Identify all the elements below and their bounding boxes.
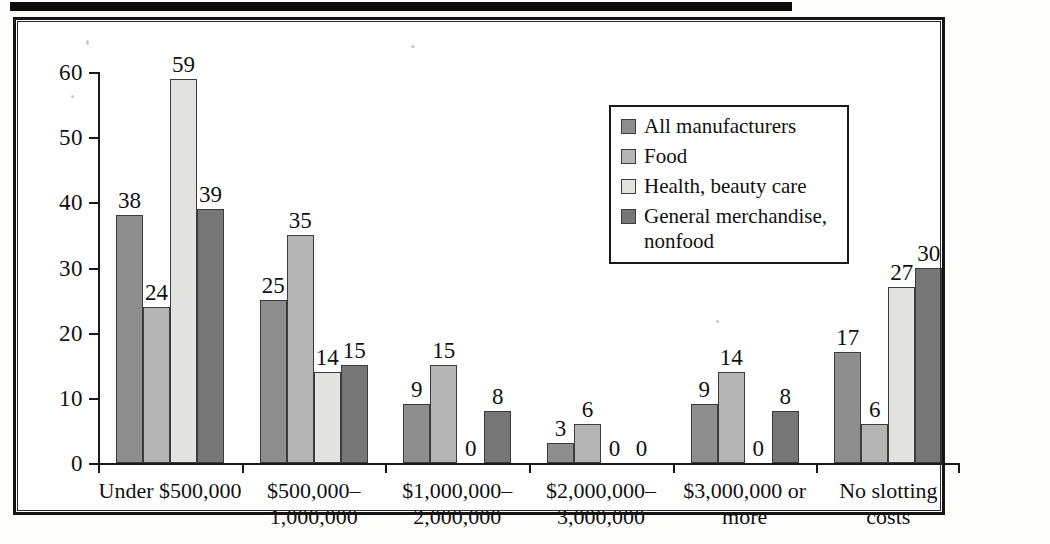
y-axis-tick: 10 (89, 398, 98, 400)
bar-value-label: 3 (555, 417, 567, 440)
bar-value-label: 14 (316, 346, 339, 369)
bar-column: 24 (143, 72, 170, 463)
bar-value-label: 27 (890, 261, 913, 284)
bar-column: 14 (314, 72, 341, 463)
bar-column: 15 (341, 72, 368, 463)
bar-column: 6 (574, 72, 601, 463)
figure-frame: 0102030405060 38245939253514159150836009… (13, 17, 945, 515)
bar-column: 27 (888, 72, 915, 463)
bar (430, 365, 457, 463)
legend-item-label: All manufacturers (644, 114, 796, 138)
y-axis-tick-label: 30 (59, 256, 83, 282)
bar (484, 411, 511, 463)
bar (341, 365, 368, 463)
legend-item-label: Health, beauty care (644, 174, 807, 198)
y-axis-tick: 0 (89, 463, 98, 465)
bar (143, 307, 170, 463)
bar-column: 59 (170, 72, 197, 463)
legend-item-label: General merchandise, nonfood (644, 204, 827, 252)
y-axis-tick-label: 0 (71, 451, 83, 477)
y-axis-tick: 20 (89, 333, 98, 335)
bar-column: 39 (197, 72, 224, 463)
bar (691, 404, 718, 463)
bar-value-label: 0 (636, 437, 648, 460)
bar-value-label: 39 (199, 183, 222, 206)
bar-value-label: 8 (779, 385, 791, 408)
bar-column: 15 (430, 72, 457, 463)
x-axis-category-label: $1,000,000– 2,000,000 (377, 478, 537, 530)
bar-column: 6 (861, 72, 888, 463)
x-axis-tick (958, 463, 960, 473)
bar (888, 287, 915, 463)
bar (287, 235, 314, 463)
bar-column: 35 (287, 72, 314, 463)
x-axis-tick (242, 463, 244, 473)
bar (547, 443, 574, 463)
bar-value-label: 0 (752, 437, 764, 460)
bar-column: 3 (547, 72, 574, 463)
bar-column: 38 (116, 72, 143, 463)
x-axis-category-label: $2,000,000– 3,000,000 (521, 478, 681, 530)
x-axis-tick (673, 463, 675, 473)
bar-value-label: 9 (698, 378, 710, 401)
bar-value-label: 6 (869, 398, 881, 421)
bar-value-label: 30 (917, 242, 940, 265)
bar-value-label: 35 (289, 209, 312, 232)
x-axis-category-label: No slotting costs (808, 478, 968, 530)
legend-item: Food (621, 144, 837, 168)
bar-value-label: 25 (262, 274, 285, 297)
y-axis-tick: 30 (89, 268, 98, 270)
legend-item-label: Food (644, 144, 687, 168)
y-axis-tick-label: 40 (59, 190, 83, 216)
figure-page: 0102030405060 38245939253514159150836009… (0, 0, 1050, 544)
bar (861, 424, 888, 463)
y-axis-tick-label: 50 (59, 125, 83, 151)
x-axis-tick (385, 463, 387, 473)
x-axis-tick (98, 463, 100, 473)
bar-value-label: 14 (720, 346, 743, 369)
bar (772, 411, 799, 463)
bar-column: 30 (915, 72, 942, 463)
y-axis-tick-label: 10 (59, 386, 83, 412)
legend-item: Health, beauty care (621, 174, 837, 198)
legend-item: All manufacturers (621, 114, 837, 138)
y-axis-tick-label: 60 (59, 60, 83, 86)
bar (915, 268, 942, 464)
bar (314, 372, 341, 463)
y-axis-tick: 50 (89, 137, 98, 139)
bar-value-label: 0 (609, 437, 621, 460)
legend-color-swatch (621, 209, 636, 224)
bar (170, 79, 197, 463)
bar (574, 424, 601, 463)
bar-value-label: 0 (465, 437, 477, 460)
legend-color-swatch (621, 179, 636, 194)
bar (403, 404, 430, 463)
bar-column: 9 (403, 72, 430, 463)
bar (834, 352, 861, 463)
bar-value-label: 15 (343, 339, 366, 362)
legend-color-swatch (621, 119, 636, 134)
bar-value-label: 15 (432, 339, 455, 362)
x-axis-tick (816, 463, 818, 473)
y-axis-tick: 60 (89, 72, 98, 74)
bar-value-label: 9 (411, 378, 423, 401)
x-axis-category-label: $500,000– 1,000,000 (234, 478, 394, 530)
scan-speck (86, 40, 89, 45)
legend-item: General merchandise, nonfood (621, 204, 837, 252)
bar-value-label: 17 (836, 326, 859, 349)
bar-value-label: 38 (118, 189, 141, 212)
scan-speck (411, 45, 415, 48)
legend-color-swatch (621, 149, 636, 164)
bar-column: 0 (457, 72, 484, 463)
bar (197, 209, 224, 463)
bar (116, 215, 143, 463)
bar-column: 8 (484, 72, 511, 463)
bar (260, 300, 287, 463)
y-axis-tick: 40 (89, 202, 98, 204)
bar (718, 372, 745, 463)
bar-value-label: 6 (582, 398, 594, 421)
bar-value-label: 24 (145, 281, 168, 304)
chart-legend: All manufacturersFoodHealth, beauty care… (609, 105, 849, 264)
x-axis-category-label: $3,000,000 or more (665, 478, 825, 530)
y-axis-tick-label: 20 (59, 321, 83, 347)
